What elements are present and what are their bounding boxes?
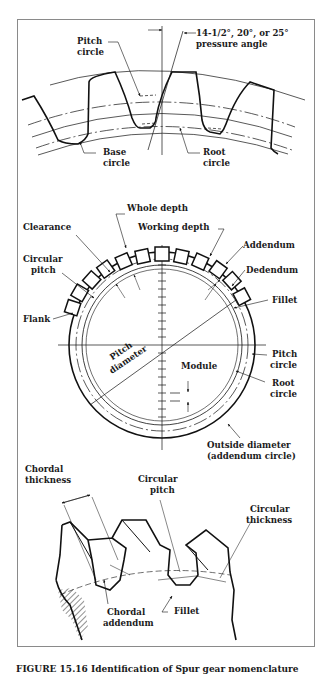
label-line: circle	[270, 389, 297, 400]
base-circle-arc-2	[36, 126, 292, 150]
label-line: Outside diameter	[207, 440, 296, 451]
label-line: pitch	[138, 485, 177, 496]
label-outside-diameter: Outside diameter (addendum circle)	[207, 440, 296, 462]
label-pitch-circle-middle: Pitch circle	[270, 349, 297, 371]
figure-caption: FIGURE 15.16 Identification of Spur gear…	[16, 664, 299, 674]
label-fillet-bottom: Fillet	[174, 606, 199, 617]
label-line: thickness	[246, 515, 292, 526]
middle-gear	[53, 214, 268, 450]
label-line: 14-1/2°, 20°, or 25°	[196, 28, 289, 39]
label-line: Root	[270, 378, 297, 389]
label-line: Base	[103, 147, 130, 158]
label-line: Circular	[23, 254, 62, 265]
label-circular-thickness: Circular thickness	[246, 504, 292, 526]
label-chordal-addendum: Chordal addendum	[103, 607, 154, 629]
label-pressure-angle: 14-1/2°, 20°, or 25° pressure angle	[196, 28, 289, 50]
label-line: Circular	[246, 504, 292, 515]
label-base-circle: Base circle	[103, 147, 130, 169]
label-line: circle	[270, 360, 297, 371]
pitch-circle-arc	[28, 102, 295, 127]
label-circular-pitch-bottom: Circular pitch	[138, 474, 177, 496]
label-pitch-circle-top: Pitch circle	[77, 36, 104, 58]
label-clearance: Clearance	[23, 222, 71, 233]
label-line: Chordal	[103, 607, 154, 618]
pressure-angle-line	[148, 31, 183, 150]
label-line: Circular	[138, 474, 177, 485]
label-module: Module	[181, 361, 217, 372]
label-root-circle-top: Root circle	[203, 147, 230, 169]
label-line: Pitch	[270, 349, 297, 360]
label-flank: Flank	[23, 314, 50, 325]
label-root-circle-middle: Root circle	[270, 378, 297, 400]
label-circular-pitch-middle: Circular pitch	[23, 254, 62, 276]
label-line: (addendum circle)	[207, 451, 296, 462]
label-line: pitch	[23, 265, 62, 276]
label-whole-depth: Whole depth	[127, 203, 188, 214]
tooth-outline	[22, 72, 278, 154]
label-line: addendum	[103, 618, 154, 629]
label-line: circle	[77, 47, 104, 58]
label-chordal-thickness: Chordal thickness	[25, 464, 71, 486]
label-line: Chordal	[25, 464, 71, 475]
label-line: pressure angle	[196, 39, 289, 50]
label-line: Root	[203, 147, 230, 158]
label-dedendum: Dedendum	[246, 265, 298, 276]
bottom-gear-3d	[56, 495, 252, 640]
label-addendum: Addendum	[243, 240, 295, 251]
label-working-depth: Working depth	[138, 222, 209, 233]
label-line: circle	[103, 158, 130, 169]
pitch-arc-3d	[60, 571, 230, 596]
label-line: circle	[203, 158, 230, 169]
label-line: Pitch	[77, 36, 104, 47]
label-line: thickness	[25, 475, 71, 486]
label-fillet-middle: Fillet	[272, 295, 297, 306]
